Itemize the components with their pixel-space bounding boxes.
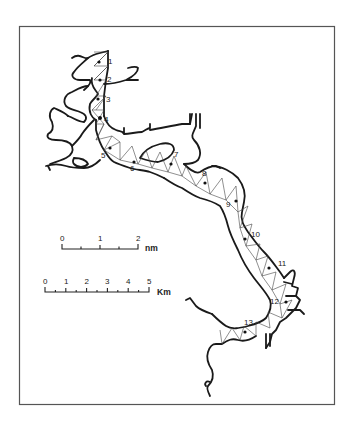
- station-1: [97, 60, 100, 63]
- scale-tick-label: 5: [147, 277, 152, 286]
- scale-tick-label: 2: [85, 277, 90, 286]
- station-12: [284, 300, 287, 303]
- station-11: [267, 266, 270, 269]
- station-label: 9: [226, 200, 231, 209]
- station-8: [203, 181, 206, 184]
- scale-tick-label: 3: [105, 277, 110, 286]
- scale-tick-label: 4: [126, 277, 131, 286]
- scale-unit-label: Km: [157, 287, 171, 297]
- station-9: [234, 199, 237, 202]
- station-4: [98, 116, 102, 120]
- station-label: 4: [104, 115, 109, 124]
- station-label: 11: [278, 259, 287, 268]
- station-label: 13: [244, 318, 253, 327]
- station-label: 8: [202, 169, 207, 178]
- station-10: [243, 237, 246, 240]
- station-3: [96, 97, 99, 100]
- station-label: 6: [130, 164, 135, 173]
- station-label: 1: [108, 57, 113, 66]
- station-label: 3: [106, 95, 111, 104]
- map-frame: [20, 27, 335, 405]
- scale-tick-label: 1: [98, 234, 103, 243]
- station-label: 7: [174, 150, 179, 159]
- scale-tick-label: 0: [60, 234, 65, 243]
- scale-unit-label: nm: [145, 243, 158, 253]
- scale-tick-label: 1: [64, 277, 69, 286]
- estuary-map: 1 2 3 4 5 6 7 8 9 10 11 12 13 0 1 2 nm 0…: [0, 0, 356, 426]
- scale-tick-label: 0: [43, 277, 48, 286]
- station-label: 10: [251, 230, 260, 239]
- scale-tick-label: 2: [136, 234, 141, 243]
- station-5: [108, 146, 111, 149]
- station-label: 2: [107, 75, 112, 84]
- station-7: [169, 162, 172, 165]
- station-label: 5: [101, 151, 106, 160]
- station-13: [243, 330, 246, 333]
- station-label: 12: [270, 297, 279, 306]
- station-2: [98, 78, 101, 81]
